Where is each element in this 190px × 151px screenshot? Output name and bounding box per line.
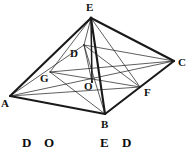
vertex-label-d: D [70,48,78,59]
edge-E-F [91,18,140,87]
pyramid-diagram [0,0,190,151]
edge-E-C [91,18,174,61]
vertex-label-g: G [40,73,49,84]
caption-letter-d1: D [22,136,31,149]
vertex-label-f: F [144,87,151,98]
edge-A-B [10,96,105,114]
vertex-dot-b [104,113,106,115]
edge-layer [10,18,174,114]
vertex-dot-e [90,17,93,20]
geometry-figure: EABCDOGF DOED [0,0,190,151]
edge-E-B [91,18,105,114]
vertex-label-e: E [86,2,93,13]
vertex-label-c: C [178,57,186,68]
caption-letter-o: O [44,136,54,149]
caption-row: DOED [0,130,190,151]
vertex-label-b: B [101,119,108,130]
vertex-label-a: A [1,98,9,109]
vertex-label-o: O [84,81,93,92]
edge-E-A [10,18,91,96]
caption-letter-e: E [100,136,109,149]
caption-letter-d2: D [122,136,131,149]
segment-G-C [50,61,174,72]
